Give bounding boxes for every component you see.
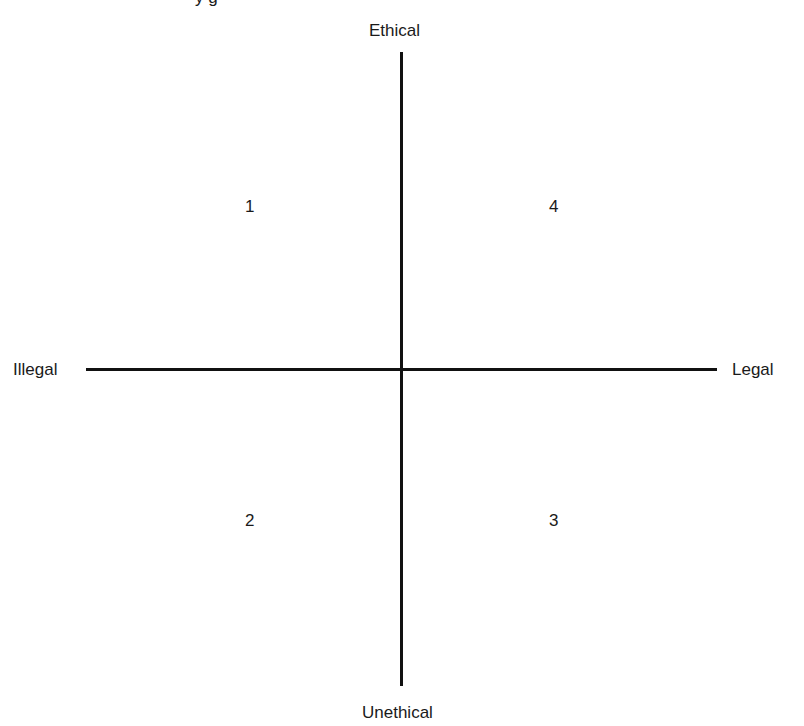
axis-label-legal: Legal	[732, 360, 774, 380]
cut-off-title-fragment: y g	[195, 0, 218, 8]
axis-label-illegal: Illegal	[13, 360, 57, 380]
quadrant-label-1: 1	[245, 197, 254, 217]
axis-label-unethical: Unethical	[362, 703, 433, 723]
horizontal-axis	[86, 368, 717, 371]
quadrant-label-4: 4	[549, 197, 558, 217]
quadrant-label-3: 3	[549, 511, 558, 531]
quadrant-label-2: 2	[245, 511, 254, 531]
axis-label-ethical: Ethical	[369, 21, 420, 41]
